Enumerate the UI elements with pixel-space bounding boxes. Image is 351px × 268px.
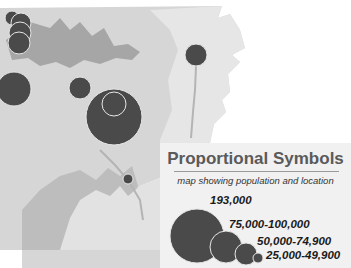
city-symbol (123, 174, 133, 184)
legend-title: Proportional Symbols (160, 149, 351, 169)
legend-label-75000-100000: 75,000-100,000 (229, 218, 310, 230)
city-symbol (69, 77, 91, 99)
city-symbol (185, 44, 207, 66)
legend-subtitle: map showing population and location (160, 175, 351, 186)
legend-panel: Proportional Symbols map showing populat… (160, 143, 351, 268)
legend-symbol-50000-74900 (235, 243, 257, 265)
legend-symbol-25000-49900 (253, 253, 263, 263)
legend-divider (174, 171, 339, 172)
city-symbol (8, 32, 30, 54)
city-symbol (102, 92, 126, 116)
legend-label-50000-74900: 50,000-74,900 (257, 235, 331, 247)
legend-label-193000: 193,000 (210, 194, 252, 206)
legend-label-25000-49900: 25,000-49,900 (266, 249, 340, 261)
city-symbol (0, 72, 31, 106)
